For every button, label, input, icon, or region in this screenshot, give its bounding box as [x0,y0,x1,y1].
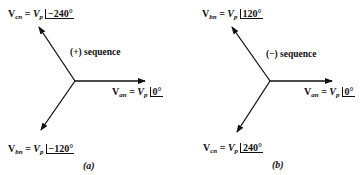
label-van-a: Van = Vp0° [112,86,163,101]
angle-symbol: 0° [150,87,163,97]
label-vcn-a: Vcn = Vp−240° [8,8,74,23]
diagram-a-arrows [39,27,145,130]
label-van-b: Van = Vp0° [304,86,355,101]
label-vbn-b: Vbn = Vp120° [202,8,263,23]
diagram-b-arrows [232,27,332,132]
arrow-vbn-a [41,81,75,130]
sequence-label-b: (−) sequence [266,49,317,59]
arrow-vcn-b [237,81,270,132]
label-vcn-b: Vcn = Vp240° [203,142,263,157]
caption-a: (a) [83,160,95,171]
sequence-label-a: (+) sequence [70,47,121,57]
angle-symbol: 240° [240,143,263,153]
arrow-vbn-b [232,27,270,81]
label-vbn-a: Vbn = Vp−120° [8,143,74,158]
angle-symbol: 0° [342,87,355,97]
angle-symbol: 120° [240,9,263,19]
caption-b: (b) [272,159,284,170]
angle-symbol: −120° [46,144,75,154]
angle-symbol: −240° [45,9,74,19]
